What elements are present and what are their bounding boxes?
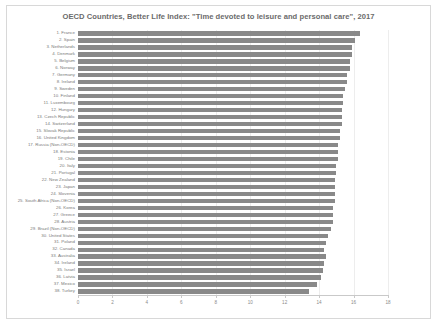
bar-row bbox=[78, 282, 388, 286]
x-tick-mark bbox=[285, 295, 286, 298]
bar bbox=[78, 192, 335, 196]
bar-row bbox=[78, 157, 388, 161]
bar bbox=[78, 171, 336, 175]
category-label: 19. Chile bbox=[0, 157, 75, 161]
category-label: 34. Ireland bbox=[0, 261, 75, 265]
x-tick-mark bbox=[216, 295, 217, 298]
bar-row bbox=[78, 234, 388, 238]
bar-row bbox=[78, 31, 388, 35]
bar bbox=[78, 38, 355, 42]
x-tick-label: 14 bbox=[309, 300, 329, 305]
category-label: 15. Slovak Republic bbox=[0, 129, 75, 133]
bar-row bbox=[78, 227, 388, 231]
bar-row bbox=[78, 101, 388, 105]
bar bbox=[78, 185, 335, 189]
x-tick-mark bbox=[147, 295, 148, 298]
bar-row bbox=[78, 268, 388, 272]
bar-row bbox=[78, 164, 388, 168]
category-label: 1. France bbox=[0, 31, 75, 35]
category-label: 31. Poland bbox=[0, 240, 75, 244]
category-label: 13. Czech Republic bbox=[0, 115, 75, 119]
bar bbox=[78, 248, 324, 252]
bar-row bbox=[78, 199, 388, 203]
category-label: 35. Israel bbox=[0, 268, 75, 272]
x-tick-mark bbox=[181, 295, 182, 298]
category-label: 33. Australia bbox=[0, 254, 75, 258]
bar-row bbox=[78, 275, 388, 279]
category-label: 18. Estonia bbox=[0, 150, 75, 154]
category-label: 38. Turkey bbox=[0, 289, 75, 293]
category-label: 16. United Kingdom bbox=[0, 136, 75, 140]
bar bbox=[78, 234, 328, 238]
bar bbox=[78, 227, 331, 231]
bar bbox=[78, 206, 333, 210]
x-tick-label: 10 bbox=[240, 300, 260, 305]
bar bbox=[78, 275, 321, 279]
category-label: 32. Canada bbox=[0, 247, 75, 251]
bar-row bbox=[78, 115, 388, 119]
bar-row bbox=[78, 52, 388, 56]
category-label: 7. Germany bbox=[0, 73, 75, 77]
chart-figure: OECD Countries, Better Life Index: "Time… bbox=[0, 0, 437, 324]
x-tick-mark bbox=[250, 295, 251, 298]
bar bbox=[78, 31, 360, 35]
bar bbox=[78, 254, 326, 258]
bar-row bbox=[78, 248, 388, 252]
bar-row bbox=[78, 185, 388, 189]
bar bbox=[78, 143, 338, 147]
category-label: 22. New Zealand bbox=[0, 178, 75, 182]
bar-row bbox=[78, 108, 388, 112]
x-tick-mark bbox=[319, 295, 320, 298]
category-label: 37. Mexico bbox=[0, 282, 75, 286]
category-label: 12. Hungary bbox=[0, 108, 75, 112]
gridline bbox=[388, 30, 389, 295]
bar bbox=[78, 59, 350, 63]
bar-row bbox=[78, 213, 388, 217]
bar bbox=[78, 241, 326, 245]
category-label: 20. Italy bbox=[0, 164, 75, 168]
x-tick-label: 12 bbox=[275, 300, 295, 305]
x-tick-label: 18 bbox=[378, 300, 398, 305]
bar bbox=[78, 289, 309, 293]
bar-row bbox=[78, 136, 388, 140]
bar-row bbox=[78, 289, 388, 293]
x-axis-line bbox=[78, 295, 389, 296]
category-label: 21. Portugal bbox=[0, 171, 75, 175]
bar bbox=[78, 199, 335, 203]
category-label: 17. Russia (Non-OECD) bbox=[0, 143, 75, 147]
bar-row bbox=[78, 45, 388, 49]
category-label: 14. Switzerland bbox=[0, 122, 75, 126]
x-tick-label: 4 bbox=[137, 300, 157, 305]
x-tick-label: 8 bbox=[206, 300, 226, 305]
category-label: 27. Greece bbox=[0, 213, 75, 217]
category-label: 36. Latvia bbox=[0, 275, 75, 279]
plot-area bbox=[78, 30, 388, 295]
bar-row bbox=[78, 143, 388, 147]
bar-row bbox=[78, 150, 388, 154]
bar bbox=[78, 73, 347, 77]
x-tick-label: 2 bbox=[102, 300, 122, 305]
bar-row bbox=[78, 220, 388, 224]
bar-row bbox=[78, 206, 388, 210]
bar-row bbox=[78, 192, 388, 196]
bar bbox=[78, 45, 352, 49]
bar bbox=[78, 122, 342, 126]
bar-row bbox=[78, 171, 388, 175]
bar bbox=[78, 129, 340, 133]
bar bbox=[78, 66, 350, 70]
bar bbox=[78, 150, 338, 154]
bar bbox=[78, 261, 324, 265]
x-tick-mark bbox=[354, 295, 355, 298]
bar bbox=[78, 268, 323, 272]
bar-row bbox=[78, 261, 388, 265]
category-label: 2. Spain bbox=[0, 38, 75, 42]
category-label: 5. Belgium bbox=[0, 59, 75, 63]
bar-row bbox=[78, 66, 388, 70]
bar bbox=[78, 101, 343, 105]
bar-row bbox=[78, 73, 388, 77]
category-label: 3. Netherlands bbox=[0, 45, 75, 49]
bar bbox=[78, 108, 342, 112]
bar-row bbox=[78, 59, 388, 63]
bar bbox=[78, 115, 342, 119]
bar bbox=[78, 94, 343, 98]
